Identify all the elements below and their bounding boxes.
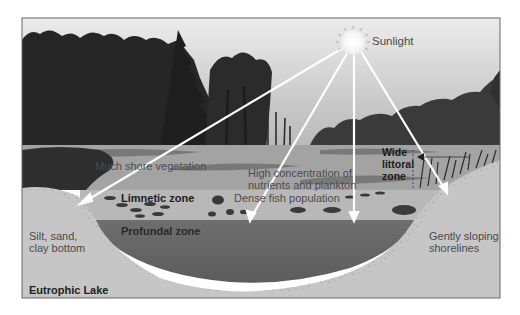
nutrients-label-line1: High concentration of [248, 167, 352, 180]
nutrients-label-line2: nutrients and plankton [248, 179, 356, 192]
eutrophic-lake-diagram [0, 0, 520, 315]
profundal-zone-label: Profundal zone [121, 225, 200, 238]
wide-littoral-label-line1: Wide [382, 146, 407, 159]
sunlight-label: Sunlight [372, 35, 414, 48]
fish-population-label: Dense fish population [234, 192, 340, 205]
gently-sloping-label-line2: shorelines [429, 242, 479, 255]
silt-sand-label-line1: Silt, sand, [29, 230, 77, 243]
wide-littoral-label-line2: littoral [382, 158, 414, 171]
limnetic-zone-label: Limnetic zone [121, 192, 194, 205]
silt-sand-label-line2: clay bottom [29, 242, 85, 255]
wide-littoral-label-line3: zone [382, 170, 406, 183]
shore-vegetation-label: Much shore vegetation [95, 160, 206, 173]
gently-sloping-label-line1: Gently sloping [429, 230, 499, 243]
diagram-title: Eutrophic Lake [29, 284, 108, 297]
